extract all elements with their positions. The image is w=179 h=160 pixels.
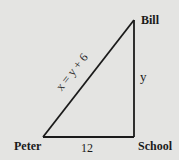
vertex-label-school: School [138, 140, 172, 152]
edge-label-side: y [140, 70, 147, 83]
edge-label-base: 12 [81, 142, 93, 154]
vertex-label-peter: Peter [14, 140, 41, 152]
vertex-label-bill: Bill [141, 14, 159, 26]
